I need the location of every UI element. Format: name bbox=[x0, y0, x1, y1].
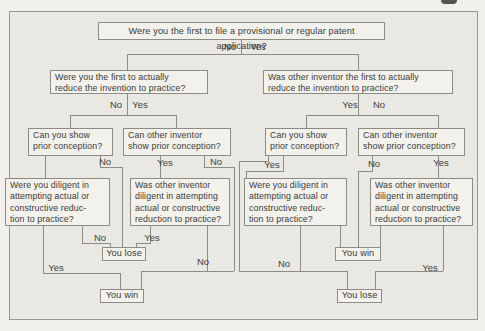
edge-label-l3b-yes: Yes bbox=[157, 157, 173, 168]
edge-label-l4a-yes: Yes bbox=[48, 262, 64, 273]
node-outcome-lose-left: You lose bbox=[102, 247, 146, 261]
patent-decision-tree-figure: NoYesNoYesYesNoNoYesNoYesNoYesNoYesYesNo… bbox=[0, 0, 485, 331]
edge-label-right2-no: No bbox=[373, 99, 385, 110]
edge-lose-bus-right bbox=[375, 271, 443, 289]
node-q-you-prior-conception-left: Can you show prior conception? bbox=[28, 128, 113, 156]
edge-left2-split bbox=[70, 115, 176, 128]
edge-label-l3b-no: No bbox=[210, 156, 222, 167]
node-q-other-prior-conception-left: Can other inventor show prior conception… bbox=[123, 128, 231, 156]
edge-label-r3b-no: No bbox=[368, 158, 380, 169]
node-q-other-diligent-left: Was other inventor diligent in attemptin… bbox=[130, 178, 230, 226]
edge-label-l3a-no: No bbox=[99, 156, 111, 167]
edge-root-split bbox=[127, 54, 358, 70]
edge-lose-bus-left bbox=[239, 271, 347, 289]
edge-label-right2-yes: Yes bbox=[342, 99, 358, 110]
edge-win-bus-left bbox=[43, 273, 120, 289]
node-outcome-win-left: You win bbox=[100, 289, 144, 303]
edge-right2-split bbox=[306, 115, 438, 128]
edge-label-r4a-no: No bbox=[278, 258, 290, 269]
node-outcome-win-right: You win bbox=[335, 247, 381, 261]
edge-win-bus-right bbox=[141, 271, 234, 289]
node-q-other-diligent-right: Was other inventor diligent in attemptin… bbox=[370, 178, 473, 226]
edge-label-r3a-yes: Yes bbox=[264, 159, 280, 170]
node-q-other-prior-conception-right: Can other inventor show prior conception… bbox=[358, 128, 465, 156]
node-q-you-diligent-left: Were you diligent in attempting actual o… bbox=[5, 178, 110, 226]
node-outcome-lose-right: You lose bbox=[337, 289, 382, 303]
edge-label-l4b-no: No bbox=[197, 256, 209, 267]
node-q-you-prior-conception-right: Can you show prior conception? bbox=[265, 128, 347, 156]
node-q-you-reduced-first: Were you the first to actually reduce th… bbox=[50, 70, 208, 94]
edge-label-left2-yes: Yes bbox=[132, 99, 148, 110]
node-q-filed-first: Were you the first to file a provisional… bbox=[98, 22, 385, 40]
edge-label-l4a-no: No bbox=[94, 232, 106, 243]
node-q-you-diligent-right: Were you diligent in attempting actual o… bbox=[244, 178, 347, 226]
edge-label-r3b-yes: Yes bbox=[433, 157, 449, 168]
node-q-other-reduced-first: Was other inventor the first to actually… bbox=[263, 70, 453, 94]
edge-label-l4b-yes: Yes bbox=[144, 232, 160, 243]
edge-label-r4b-yes: Yes bbox=[422, 262, 438, 273]
edge-label-left2-no: No bbox=[110, 99, 122, 110]
